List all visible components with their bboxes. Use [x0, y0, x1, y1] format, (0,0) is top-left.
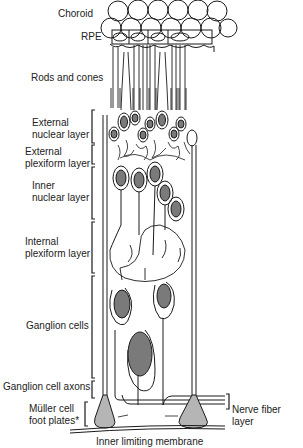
external-plexiform-synapses — [118, 140, 190, 160]
label-external-nuclear-layer: External nuclear layer — [32, 117, 89, 140]
photoreceptor-nuclei — [109, 111, 197, 146]
label-inner-nuclear-layer: Inner nuclear layer — [32, 180, 89, 203]
retina-diagram: Choroid RPE Rods and cones External nucl… — [0, 0, 303, 448]
label-choroid: Choroid — [58, 8, 93, 20]
label-ganglion-cells: Ganglion cells — [26, 320, 89, 332]
choroid-cells — [101, 0, 237, 38]
label-inner-limiting-membrane: Inner limiting membrane — [96, 436, 203, 448]
label-ganglion-cell-axons: Ganglion cell axons — [3, 381, 90, 393]
label-muller-cell-foot-plates: Müller cell foot plates* — [29, 403, 79, 426]
rpe-cells — [110, 30, 214, 52]
label-internal-plexiform-layer: Internal plexiform layer — [25, 236, 90, 259]
label-rods-and-cones: Rods and cones — [31, 72, 103, 84]
photoreceptors — [111, 45, 186, 110]
label-rpe: RPE — [81, 31, 102, 43]
inner-nuclear-cells — [110, 162, 184, 255]
internal-plexiform-synapses — [110, 225, 185, 282]
label-nerve-fiber-layer: Nerve fiber layer — [232, 404, 303, 427]
ganglion-cells — [110, 282, 175, 405]
label-external-plexiform-layer: External plexiform layer — [25, 146, 90, 169]
